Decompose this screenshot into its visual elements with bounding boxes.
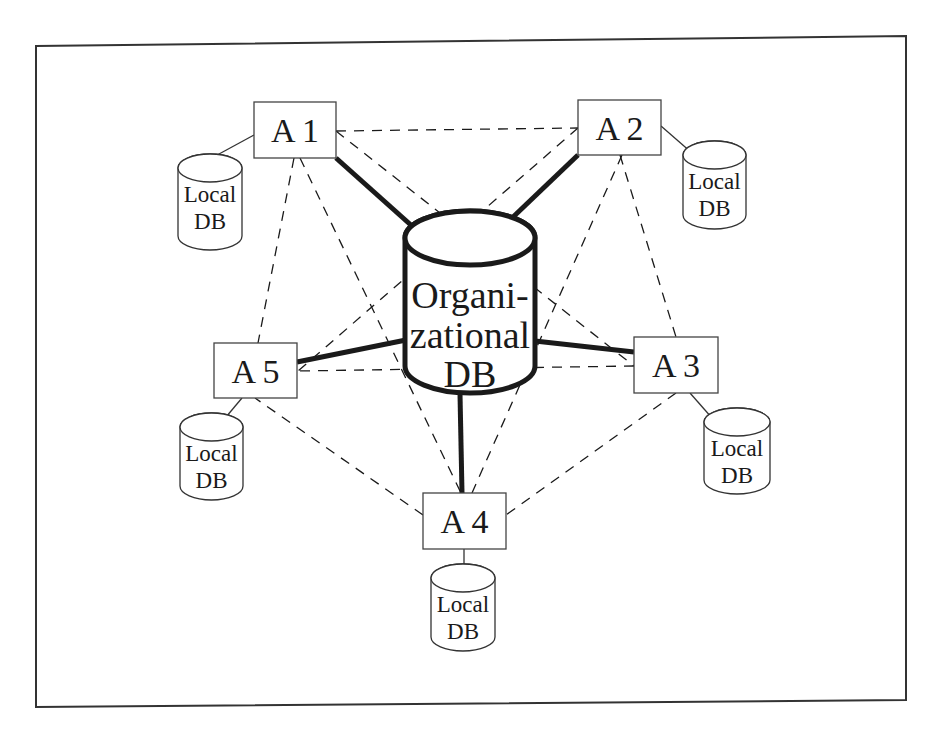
organizational-db-label-line: DB [444, 353, 497, 395]
local-db-label-line: Local [184, 182, 236, 207]
agent-node-a3: A 3 [634, 337, 718, 393]
agent-label: A 2 [595, 110, 643, 147]
solid-link-a5-org [297, 340, 406, 362]
local-db-label-line: Local [688, 169, 740, 194]
dashed-link-a2-a3 [620, 155, 676, 337]
local-db-top [683, 141, 746, 169]
local-db-label-line: Local [711, 436, 763, 461]
agent-label: A 1 [271, 112, 319, 149]
dashed-link-a3-a4 [506, 393, 676, 515]
organizational-db: Organi-zationalDB [405, 211, 535, 395]
local-db-top [178, 154, 242, 182]
dashed-link-a1-a5 [258, 158, 294, 343]
solid-link-a3-org [535, 341, 634, 352]
local-db-link-a5 [226, 398, 242, 417]
local-db-top [704, 408, 770, 436]
organizational-db-label-line: zational [410, 314, 530, 356]
agent-node-a4: A 4 [423, 493, 506, 549]
local-db-a3: LocalDB [704, 408, 770, 494]
agent-node-a1: A 1 [254, 102, 336, 158]
solid-link-a1-org [336, 158, 412, 226]
organizational-db-top [405, 211, 535, 265]
local-db-label-line: Local [437, 592, 489, 617]
solid-link-a2-org [512, 155, 578, 218]
agent-label: A 5 [231, 353, 279, 390]
local-db-a4: LocalDB [431, 564, 495, 651]
local-db-a5: LocalDB [180, 413, 243, 500]
local-db-label-line: DB [196, 468, 228, 493]
distributed-database-diagram: Organi-zationalDB A 1A 2A 3A 4A 5 LocalD… [0, 0, 943, 736]
local-db-top [431, 564, 495, 592]
local-db-top [180, 413, 243, 441]
local-db-label-line: Local [185, 441, 237, 466]
local-db-a2: LocalDB [683, 141, 746, 229]
agent-node-a5: A 5 [214, 343, 297, 398]
local-db-a1: LocalDB [178, 154, 242, 250]
agent-node-a2: A 2 [578, 100, 661, 155]
local-db-label-line: DB [699, 196, 731, 221]
solid-link-a4-org [460, 394, 462, 493]
dashed-link-a1-a2 [336, 128, 578, 131]
dashed-link-a4-a5 [255, 398, 423, 515]
local-db-label-line: DB [194, 209, 226, 234]
local-db-label-line: DB [721, 463, 753, 488]
organizational-db-label-line: Organi- [411, 274, 529, 316]
local-db-label-line: DB [447, 619, 479, 644]
agent-label: A 4 [440, 503, 488, 540]
agent-label: A 3 [652, 347, 700, 384]
